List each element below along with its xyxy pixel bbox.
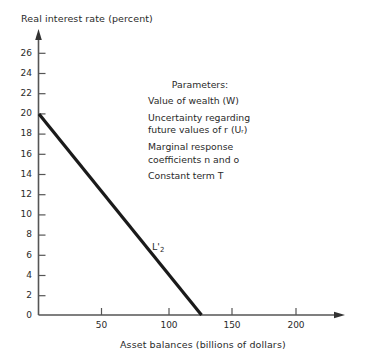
y-tick-label-22: 22 bbox=[12, 88, 32, 98]
y-axis-arrow-icon bbox=[35, 29, 42, 40]
curve-label-main: L' bbox=[152, 241, 160, 252]
parameters-heading: Parameters: bbox=[148, 79, 252, 91]
x-tick-label-50: 50 bbox=[87, 320, 117, 330]
y-tick-label-6: 6 bbox=[12, 250, 32, 260]
y-tick-label-20: 20 bbox=[12, 108, 32, 118]
y-tick-label-4: 4 bbox=[12, 270, 32, 280]
y-tick-label-18: 18 bbox=[12, 128, 32, 138]
parameter-line-constant: Constant term T bbox=[148, 170, 278, 182]
chart-figure: Real interest rate (percent) Asset balan… bbox=[0, 0, 365, 363]
parameter-line-wealth: Value of wealth (W) bbox=[148, 95, 278, 107]
x-tick-label-200: 200 bbox=[281, 320, 311, 330]
parameter-line-marginal-2: coefficients n and o bbox=[148, 154, 278, 166]
y-tick-label-10: 10 bbox=[12, 209, 32, 219]
y-tick-label-24: 24 bbox=[12, 68, 32, 78]
parameters-annotation: Parameters: Value of wealth (W) Uncertai… bbox=[148, 79, 278, 183]
parameter-line-marginal-1: Marginal response bbox=[148, 141, 278, 153]
x-tick-label-150: 150 bbox=[217, 320, 247, 330]
y-tick-label-0: 0 bbox=[12, 310, 32, 320]
y-tick-label-2: 2 bbox=[12, 290, 32, 300]
parameter-line-uncertainty-2: future values of r (Uᵣ) bbox=[148, 124, 278, 136]
curve-label-l2: L'2 bbox=[152, 241, 164, 252]
x-tick-label-100: 100 bbox=[154, 320, 184, 330]
y-tick-label-8: 8 bbox=[12, 229, 32, 239]
y-tick-label-12: 12 bbox=[12, 189, 32, 199]
x-axis-arrow-icon bbox=[334, 312, 345, 318]
y-tick-label-16: 16 bbox=[12, 149, 32, 159]
y-tick-label-26: 26 bbox=[12, 48, 32, 58]
curve-label-subscript: 2 bbox=[160, 246, 164, 254]
y-tick-label-14: 14 bbox=[12, 169, 32, 179]
parameter-line-uncertainty-1: Uncertainty regarding bbox=[148, 112, 278, 124]
y-axis-ticks bbox=[39, 53, 46, 295]
